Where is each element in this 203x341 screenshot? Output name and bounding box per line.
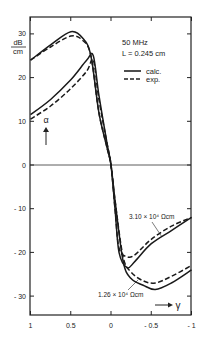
y-unit-numerator: dB (13, 38, 22, 47)
length-label: L = 0.245 cm (122, 49, 165, 58)
y-tick-label: 20 (18, 74, 26, 81)
right-arrow-head-icon (168, 303, 173, 308)
y-tick-label: 10 (18, 118, 26, 125)
y-tick-label: - 30 (14, 293, 26, 300)
series-line-4 (31, 59, 192, 257)
x-tick-label: 1 (29, 322, 33, 329)
resistivity-leader-2 (128, 280, 138, 290)
y-axis-label: α (43, 115, 48, 125)
x-tick-label: - 1 (187, 322, 195, 329)
legend-exp-label: exp. (146, 75, 160, 84)
x-tick-label: 0 (109, 322, 113, 329)
y-tick-label: 0 (22, 162, 26, 169)
frequency-label: 50 MHz (122, 38, 148, 47)
resistivity-label-2: 1.26 × 10⁴ Ωcm (98, 291, 143, 298)
y-tick-label: 30 (18, 30, 26, 37)
up-arrow-head-icon (43, 127, 49, 132)
y-tick-label: - 20 (14, 249, 26, 256)
y-unit-denominator: cm (13, 47, 23, 56)
y-tick-label: - 10 (14, 205, 26, 212)
x-tick-label: 0.5 (66, 322, 76, 329)
attenuation-chart: 3020100- 10- 20- 3010.50- 0.5- 1dBcmαγ50… (0, 0, 203, 341)
x-tick-label: - 0.5 (144, 322, 158, 329)
resistivity-label-1: 3.10 × 10⁴ Ωcm (129, 213, 174, 220)
x-axis-label: γ (176, 300, 181, 311)
